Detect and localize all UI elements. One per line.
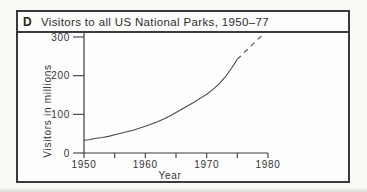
x-axis-title: Year: [158, 170, 181, 181]
scanned-page: D Visitors to all US National Parks, 195…: [0, 0, 367, 192]
x-tick-label: 1980: [255, 159, 280, 170]
y-tick-label: 100: [51, 109, 70, 120]
x-tick-label: 1960: [133, 159, 158, 170]
visitors-line-chart: 19501960197019800100200300YearVisitors i…: [0, 0, 367, 192]
y-axis-title: Visitors in millions: [42, 64, 53, 157]
y-tick-label: 300: [51, 32, 70, 43]
y-tick-label: 0: [64, 148, 70, 159]
x-tick-label: 1950: [71, 159, 96, 170]
x-tick-label: 1970: [194, 159, 219, 170]
y-tick-label: 200: [51, 70, 70, 81]
curve-observed: [84, 59, 237, 140]
curve-projected: [237, 36, 262, 60]
